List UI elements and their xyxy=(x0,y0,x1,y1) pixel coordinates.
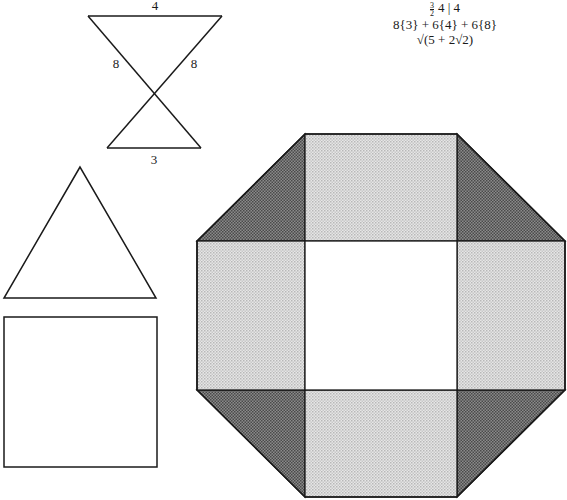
hourglass-bottom-label: 3 xyxy=(151,152,158,167)
triangle-face xyxy=(4,167,156,298)
symbol-rest: 4 | 4 xyxy=(438,0,460,15)
formula-block: 324 | 4 8{3} + 6{4} + 6{8} √(5 + 2√2) xyxy=(340,0,550,47)
octagon-edge-left xyxy=(197,241,305,390)
square-face xyxy=(4,317,157,467)
symbol-fraction: 32 xyxy=(430,2,434,17)
hourglass-diagram xyxy=(88,16,222,148)
octagon-edge-bottom xyxy=(305,390,457,497)
hourglass-left-diagonal xyxy=(88,16,201,148)
face-formula: 8{3} + 6{4} + 6{8} xyxy=(340,17,550,32)
octagon-edge-right xyxy=(457,241,565,390)
octagon-face xyxy=(197,134,565,497)
hourglass-right-label: 8 xyxy=(191,56,198,71)
hourglass-left-label: 8 xyxy=(113,56,120,71)
geometry-figure: 4 8 8 3 xyxy=(0,0,567,500)
hourglass-right-diagonal xyxy=(107,16,222,148)
circumradius-formula: √(5 + 2√2) xyxy=(340,32,550,47)
fraction-denominator: 2 xyxy=(430,10,434,17)
schwarz-symbol: 324 | 4 xyxy=(340,0,550,17)
octagon-edge-top xyxy=(305,134,457,241)
octagon-center-square xyxy=(305,241,457,390)
hourglass-top-label: 4 xyxy=(152,0,159,13)
